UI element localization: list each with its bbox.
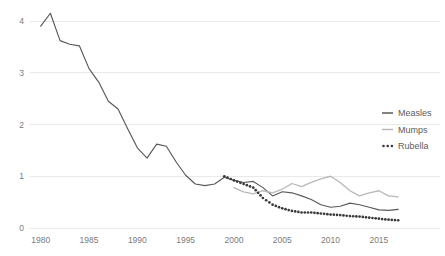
data-point	[262, 197, 265, 200]
line-chart: 01234 19801985199019952000200520102015 M…	[0, 0, 445, 256]
x-tick-label: 1985	[80, 235, 99, 245]
data-point	[316, 212, 319, 215]
data-point	[339, 214, 342, 217]
y-tick-label: 2	[19, 120, 24, 130]
chart-container: 01234 19801985199019952000200520102015 M…	[0, 0, 445, 256]
data-point	[257, 191, 260, 194]
data-point	[345, 214, 348, 217]
data-point	[268, 201, 271, 204]
series-measles	[41, 13, 398, 210]
legend-dots-marker	[391, 145, 394, 148]
data-point	[397, 219, 400, 222]
y-tick-label: 3	[19, 68, 24, 78]
gridlines	[30, 21, 440, 228]
data-point	[381, 218, 384, 221]
data-point	[300, 211, 303, 214]
x-tick-label: 1995	[176, 235, 195, 245]
data-point	[265, 199, 268, 202]
data-point	[358, 215, 361, 218]
y-tick-label: 0	[19, 223, 24, 233]
legend-item-rubella[interactable]: Rubella	[382, 141, 428, 151]
data-point	[242, 183, 245, 186]
data-point	[294, 210, 297, 213]
data-point	[239, 181, 242, 184]
data-point	[352, 215, 355, 218]
data-point	[287, 209, 290, 212]
data-point	[310, 211, 313, 214]
data-point	[281, 207, 284, 210]
data-point	[332, 213, 335, 216]
data-point	[361, 216, 364, 219]
x-axis-tick-labels: 19801985199019952000200520102015	[31, 235, 388, 245]
data-point	[390, 219, 393, 222]
data-point	[254, 189, 257, 192]
data-point	[329, 213, 332, 216]
data-point	[259, 194, 262, 197]
data-point	[394, 219, 397, 222]
data-point	[236, 180, 239, 183]
data-point	[307, 211, 310, 214]
data-point	[378, 217, 381, 220]
data-point	[313, 211, 316, 214]
data-point	[223, 175, 226, 178]
y-axis-tick-labels: 01234	[19, 16, 24, 233]
data-point	[297, 211, 300, 214]
data-point	[271, 203, 274, 206]
data-point	[278, 206, 281, 209]
data-point	[371, 217, 374, 220]
data-point	[245, 184, 248, 187]
data-point	[326, 213, 329, 216]
x-tick-label: 2000	[224, 235, 243, 245]
x-tick-label: 1990	[128, 235, 147, 245]
x-tick-label: 1980	[31, 235, 50, 245]
legend-dots-marker	[382, 145, 385, 148]
x-tick-label: 2015	[369, 235, 388, 245]
data-point	[342, 214, 345, 217]
data-point	[387, 218, 390, 221]
data-point	[323, 213, 326, 216]
data-point	[303, 211, 306, 214]
y-tick-label: 1	[19, 171, 24, 181]
legend-label: Measles	[398, 108, 432, 118]
data-point	[349, 215, 352, 218]
data-point	[374, 217, 377, 220]
data-point	[226, 176, 229, 179]
data-point	[336, 214, 339, 217]
data-point	[368, 216, 371, 219]
data-point	[365, 216, 368, 219]
data-point	[284, 208, 287, 211]
legend-item-measles[interactable]: Measles	[382, 108, 432, 118]
legend-item-mumps[interactable]: Mumps	[382, 125, 428, 135]
data-point	[384, 218, 387, 221]
data-point	[274, 205, 277, 208]
data-point	[320, 212, 323, 215]
data-point	[229, 178, 232, 181]
chart-legend: MeaslesMumpsRubella	[382, 108, 432, 151]
data-series-layer	[41, 13, 400, 221]
x-tick-label: 2005	[273, 235, 292, 245]
legend-label: Mumps	[398, 125, 428, 135]
data-point	[252, 186, 255, 189]
data-point	[249, 185, 252, 188]
x-tick-label: 2010	[321, 235, 340, 245]
data-point	[233, 179, 236, 182]
y-tick-label: 4	[19, 16, 24, 26]
data-point	[355, 215, 358, 218]
data-point	[291, 210, 294, 213]
legend-label: Rubella	[398, 141, 429, 151]
legend-dots-marker	[386, 145, 389, 148]
